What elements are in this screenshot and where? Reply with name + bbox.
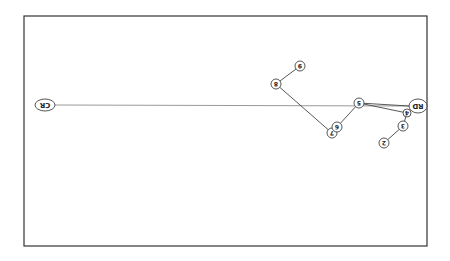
node-RD: RD [409, 99, 427, 113]
node-label: 6 [335, 124, 339, 131]
node-label: RD [412, 102, 423, 110]
node-label: 3 [401, 123, 405, 130]
node-n3: 3 [398, 121, 408, 131]
node-n9: 9 [295, 61, 305, 71]
node-CR: CR [35, 99, 55, 111]
node-n5: 5 [354, 98, 364, 108]
node-label: CR [39, 101, 50, 109]
node-label: 4 [405, 110, 409, 117]
diagram-svg: CRRD98765432 [0, 0, 450, 261]
node-n6: 6 [332, 122, 342, 132]
node-label: 8 [274, 81, 278, 88]
node-n8: 8 [271, 79, 281, 89]
diagram-frame [24, 16, 427, 246]
diagram-canvas: CRRD98765432 [0, 0, 450, 261]
node-label: 9 [298, 63, 302, 70]
node-label: 2 [382, 140, 386, 147]
node-n2: 2 [379, 138, 389, 148]
edge-n8-n7 [276, 84, 332, 133]
node-n4: 4 [403, 109, 411, 117]
node-label: 5 [357, 100, 361, 107]
